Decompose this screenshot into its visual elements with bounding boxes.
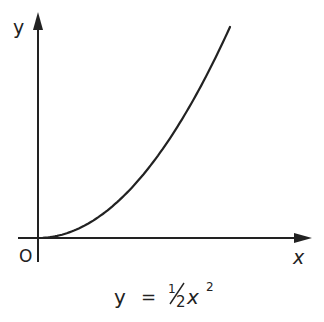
parabola-chart: y O x y = 1 2 x 2 [0,0,324,322]
y-axis-arrow-icon [33,12,43,30]
origin-label: O [19,246,32,266]
equation-exponent: 2 [206,280,214,294]
equation-var: x [186,285,199,309]
x-axis-label: x [292,246,305,268]
figure: y O x y = 1 2 x 2 [0,0,324,322]
equation-equals: = [141,286,156,307]
equation-frac-den: 2 [176,293,186,311]
parabola-curve [38,27,230,238]
x-axis-arrow-icon [294,233,312,243]
equation-frac-num: 1 [168,282,176,296]
y-axis-label: y [13,16,24,38]
equation-lhs: y [114,285,126,309]
equation-caption: y = 1 2 x 2 [114,280,214,311]
